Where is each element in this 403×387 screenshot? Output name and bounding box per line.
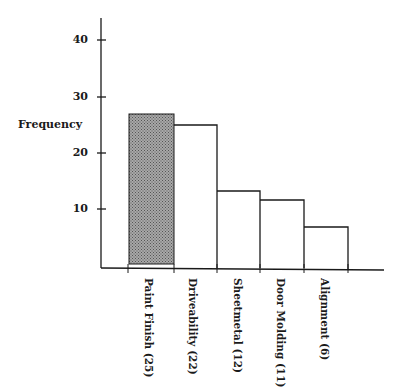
bar-driveability <box>174 125 217 268</box>
y-tick-label-10: 10 <box>58 202 88 215</box>
bar-door-molding <box>260 200 304 268</box>
x-category-sheetmetal: Sheetmetal (12) <box>232 278 244 373</box>
x-category-driveability: Driveability (22) <box>187 278 199 375</box>
x-category-alignment: Alignment (6) <box>319 278 331 360</box>
y-axis-label: Frequency <box>18 118 82 131</box>
y-tick-label-30: 30 <box>58 90 88 103</box>
x-category-paint-finish: Paint Finish (25) <box>143 278 155 377</box>
bar-sheetmetal <box>217 191 260 268</box>
x-axis <box>101 268 384 270</box>
x-category-door-molding: Door Molding (11) <box>275 278 287 387</box>
y-tick-label-40: 40 <box>58 33 88 46</box>
y-tick-label-20: 20 <box>58 146 88 159</box>
bar-paint-finish <box>129 114 174 264</box>
bar-alignment <box>304 227 348 269</box>
